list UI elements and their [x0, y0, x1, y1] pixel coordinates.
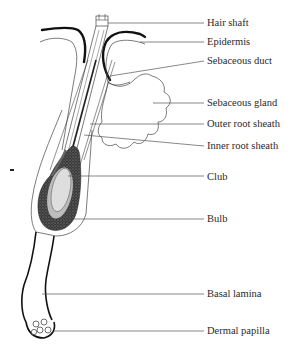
label-basal-lamina: Basal lamina — [207, 288, 262, 300]
label-hair-shaft: Hair shaft — [207, 17, 249, 29]
label-sebaceous-gland: Sebaceous gland — [207, 97, 277, 109]
hair-follicle-diagram: Hair shaft Epidermis Sebaceous duct Seba… — [0, 0, 299, 359]
label-club: Club — [207, 171, 227, 183]
bulb-shape — [38, 146, 81, 230]
stray-mark — [10, 169, 14, 171]
label-outer-root-sheath: Outer root sheath — [207, 118, 280, 130]
label-inner-root-sheath: Inner root sheath — [207, 140, 278, 152]
label-bulb: Bulb — [207, 213, 227, 225]
label-sebaceous-duct: Sebaceous duct — [207, 55, 272, 67]
leader-line-sebaceous-duct — [110, 61, 204, 76]
label-dermal-papilla: Dermal papilla — [207, 325, 270, 337]
dermal-papilla-shape — [31, 319, 51, 335]
follicle-illustration — [0, 0, 299, 359]
epidermis-surface — [40, 28, 145, 150]
label-epidermis: Epidermis — [207, 36, 250, 48]
